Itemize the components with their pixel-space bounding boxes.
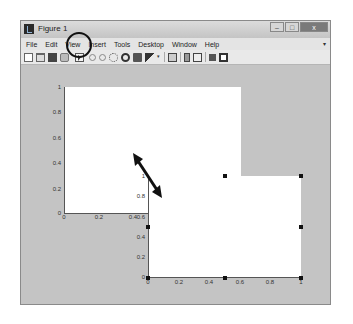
double-arrow-icon: [0, 0, 353, 324]
